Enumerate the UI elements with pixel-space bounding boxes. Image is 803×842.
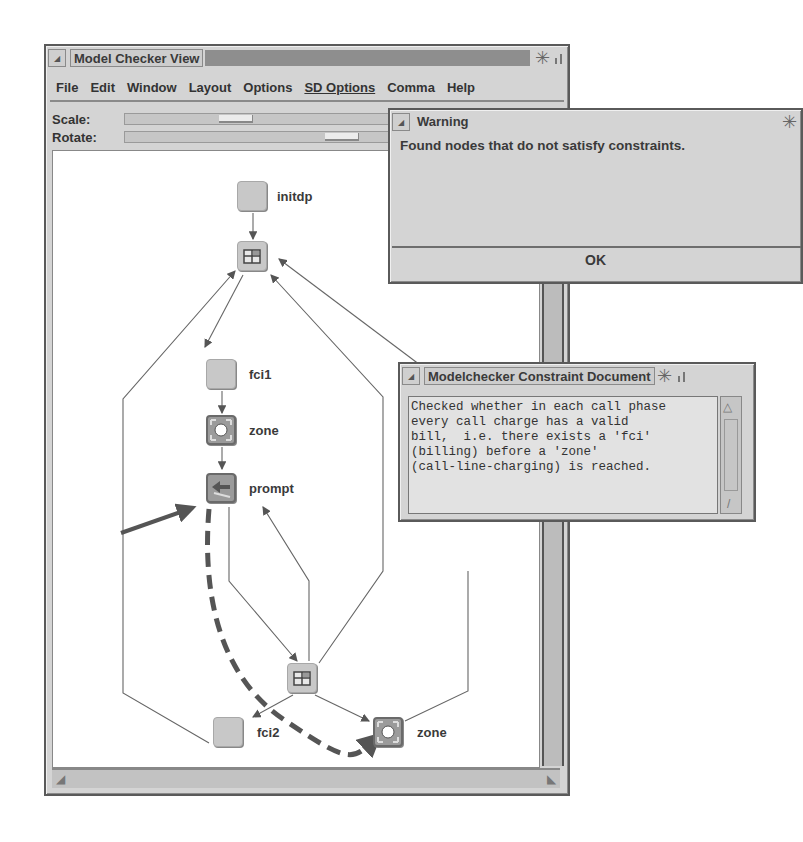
menu-help[interactable]: Help	[447, 80, 475, 95]
document-titlebar[interactable]: ◢ Modelchecker Constraint Document ✳	[402, 366, 752, 386]
scroll-right-icon[interactable]: ◣	[547, 772, 556, 786]
pin-icon[interactable]: ✳	[779, 113, 799, 131]
rotate-slider-thumb[interactable]	[325, 133, 359, 141]
resize-grip-icon[interactable]	[675, 368, 689, 384]
constraint-text[interactable]: Checked whether in each call phase every…	[408, 396, 718, 514]
warning-titlebar[interactable]: ◢ Warning ✳	[392, 112, 799, 132]
menu-file[interactable]: File	[56, 80, 78, 95]
node-initdp[interactable]	[237, 181, 267, 211]
node-label-prompt: prompt	[249, 481, 294, 496]
scale-slider-thumb[interactable]	[219, 115, 253, 123]
node-fci1[interactable]	[206, 359, 236, 389]
menu-commands[interactable]: Comma	[387, 80, 435, 95]
zone-icon	[375, 719, 401, 745]
node-hub-top[interactable]	[237, 241, 267, 271]
scroll-track[interactable]	[724, 419, 738, 491]
main-titlebar[interactable]: ◢ Model Checker View ✳	[48, 48, 566, 68]
scale-row: Scale:	[52, 110, 402, 128]
menu-options[interactable]: Options	[243, 80, 292, 95]
node-zone-2[interactable]	[373, 717, 403, 747]
scroll-down-icon[interactable]: /	[727, 497, 730, 511]
menu-layout[interactable]: Layout	[189, 80, 232, 95]
node-label-zone-2: zone	[417, 725, 447, 740]
node-zone-1[interactable]	[206, 415, 236, 445]
node-prompt[interactable]	[206, 473, 236, 503]
warning-message: Found nodes that do not satisfy constrai…	[400, 138, 685, 153]
node-label-fci2: fci2	[257, 725, 279, 740]
warning-dialog: ◢ Warning ✳ Found nodes that do not sati…	[388, 108, 803, 284]
menu-edit[interactable]: Edit	[90, 80, 115, 95]
grid-icon	[288, 664, 316, 692]
zone-icon	[208, 417, 234, 443]
dialog-separator	[392, 246, 801, 248]
horizontal-scrollbar[interactable]: ◢ ◣	[52, 768, 560, 788]
titlebar-drag-area[interactable]	[205, 50, 530, 66]
prompt-icon	[208, 475, 234, 501]
window-menu-icon[interactable]: ◢	[48, 49, 66, 67]
ok-button[interactable]: OK	[390, 252, 801, 268]
constraint-document-window: ◢ Modelchecker Constraint Document ✳ Che…	[398, 362, 756, 522]
pin-icon[interactable]: ✳	[655, 367, 675, 385]
node-label-fci1: fci1	[249, 367, 271, 382]
scale-slider[interactable]	[124, 113, 394, 125]
menu-window[interactable]: Window	[127, 80, 177, 95]
warning-title: Warning	[414, 113, 472, 131]
rotate-row: Rotate:	[52, 128, 402, 146]
window-menu-icon[interactable]: ◢	[402, 367, 420, 385]
grid-icon	[238, 242, 266, 270]
node-label-initdp: initdp	[277, 189, 312, 204]
window-menu-icon[interactable]: ◢	[392, 113, 410, 131]
rotate-slider[interactable]	[124, 131, 394, 143]
node-hub-bottom[interactable]	[287, 663, 317, 693]
resize-grip-icon[interactable]	[552, 50, 566, 66]
rotate-label: Rotate:	[52, 130, 118, 145]
window-title: Model Checker View	[70, 49, 203, 67]
menu-sd-options[interactable]: SD Options	[304, 80, 375, 95]
pin-icon[interactable]: ✳	[532, 49, 552, 67]
scale-label: Scale:	[52, 112, 118, 127]
document-title: Modelchecker Constraint Document	[424, 367, 655, 385]
menu-bar: File Edit Window Layout Options SD Optio…	[50, 74, 564, 102]
document-scrollbar[interactable]: △ /	[720, 396, 742, 514]
scroll-up-icon[interactable]: △	[723, 400, 732, 414]
node-fci2[interactable]	[213, 717, 243, 747]
scroll-left-icon[interactable]: ◢	[56, 772, 65, 786]
node-label-zone-1: zone	[249, 423, 279, 438]
